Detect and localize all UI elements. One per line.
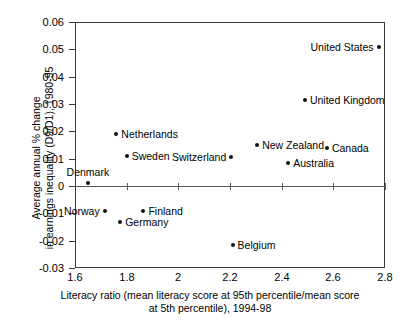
data-point xyxy=(286,161,290,165)
y-axis-tick xyxy=(69,22,75,23)
x-axis-tick-label: 2.4 xyxy=(274,272,289,283)
y-axis-tick-label: 0.01 xyxy=(43,154,64,165)
y-axis-tick-label: 0.02 xyxy=(43,126,64,137)
data-point xyxy=(118,220,122,224)
data-point-label: Switzerland xyxy=(172,152,226,163)
y-axis-tick xyxy=(69,131,75,132)
y-axis-tick xyxy=(69,241,75,242)
data-point xyxy=(141,209,145,213)
y-axis-tick-label: -0.03 xyxy=(39,263,64,274)
x-axis-tick-label: 2.6 xyxy=(325,272,340,283)
data-point xyxy=(125,154,129,158)
data-point-label: United Kingdom xyxy=(310,94,385,105)
data-point-label: Australia xyxy=(293,157,334,168)
x-axis-tick xyxy=(333,183,334,190)
x-axis-tick-label: 1.6 xyxy=(67,272,82,283)
data-point-label: United States xyxy=(310,41,373,52)
y-axis-tick xyxy=(69,159,75,160)
y-axis-tick-label: 0.06 xyxy=(43,17,64,28)
y-axis-tick xyxy=(69,49,75,50)
data-point xyxy=(255,143,259,147)
x-axis-tick-label: 1.8 xyxy=(119,272,134,283)
y-axis-tick-label: 0.05 xyxy=(43,44,64,55)
y-axis-tick xyxy=(69,104,75,105)
data-point xyxy=(229,155,233,159)
y-axis-tick-label: 0.03 xyxy=(43,99,64,110)
x-axis-tick xyxy=(282,183,283,190)
x-axis-tick-label: 2.2 xyxy=(222,272,237,283)
data-point xyxy=(377,45,381,49)
data-point-label: Germany xyxy=(125,216,168,227)
y-axis-tick xyxy=(69,268,75,269)
data-point-label: Belgium xyxy=(238,239,276,250)
x-axis-tick-label: 2.8 xyxy=(377,272,392,283)
x-axis-tick xyxy=(385,183,386,190)
data-point-label: Sweden xyxy=(132,150,170,161)
x-axis-tick xyxy=(230,183,231,190)
y-axis-tick xyxy=(69,77,75,78)
data-point xyxy=(103,209,107,213)
data-point xyxy=(114,132,118,136)
x-axis-title: Literacy ratio (mean literacy score at 9… xyxy=(40,289,380,315)
y-axis-tick xyxy=(69,186,75,187)
y-axis-tick-label: -0.01 xyxy=(39,208,64,219)
data-point-label: Norway xyxy=(64,205,100,216)
data-point xyxy=(325,146,329,150)
y-axis-tick-label: -0.02 xyxy=(39,236,64,247)
y-axis-tick-label: 0 xyxy=(58,181,64,192)
data-point xyxy=(86,181,90,185)
data-point-label: New Zealand xyxy=(262,140,324,151)
data-point-label: Netherlands xyxy=(121,129,178,140)
x-axis-tick-label: 2 xyxy=(175,272,181,283)
data-point-label: Denmark xyxy=(67,167,110,178)
x-axis-tick xyxy=(178,183,179,190)
data-point-label: Canada xyxy=(332,142,369,153)
y-axis-tick-label: 0.04 xyxy=(43,72,64,83)
x-axis-title-line-2: at 5th percentile), 1994-98 xyxy=(40,302,380,315)
data-point xyxy=(303,98,307,102)
x-axis-title-line-1: Literacy ratio (mean literacy score at 9… xyxy=(40,289,380,302)
x-axis-tick xyxy=(127,183,128,190)
scatter-chart-figure: Average annual % change in earnings ineq… xyxy=(0,0,408,328)
data-point xyxy=(231,243,235,247)
